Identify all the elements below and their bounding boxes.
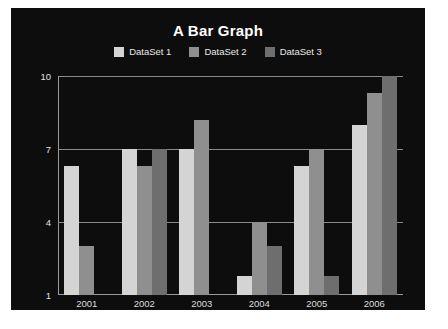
y-axis-tick-label: 4	[11, 217, 51, 228]
bar[interactable]	[64, 166, 79, 295]
x-axis-tick-label: 2002	[116, 298, 174, 309]
legend-entry[interactable]: DataSet 1	[114, 46, 171, 57]
x-axis-tick-label: 2005	[288, 298, 346, 309]
legend-label: DataSet 2	[204, 46, 246, 57]
bar[interactable]	[294, 166, 309, 295]
bar[interactable]	[324, 276, 339, 295]
bar[interactable]	[152, 149, 167, 295]
legend-swatch-icon	[265, 47, 275, 57]
plot-area: 14710200120022003200420052006	[58, 76, 403, 295]
bar[interactable]	[267, 246, 282, 295]
bar[interactable]	[237, 276, 252, 295]
bar[interactable]	[137, 166, 152, 295]
bar-group	[231, 76, 289, 295]
legend-swatch-icon	[189, 47, 199, 57]
screenshot-root: A Bar Graph DataSet 1DataSet 2DataSet 3 …	[0, 0, 448, 329]
chart-legend: DataSet 1DataSet 2DataSet 3	[11, 46, 425, 57]
bar-group	[116, 76, 174, 295]
bar-group	[288, 76, 346, 295]
bar[interactable]	[367, 93, 382, 295]
bar[interactable]	[194, 120, 209, 295]
x-axis-tick-label: 2006	[346, 298, 404, 309]
bar[interactable]	[352, 125, 367, 295]
bar-group	[173, 76, 231, 295]
bar[interactable]	[252, 222, 267, 295]
bar-group	[58, 76, 116, 295]
x-axis-tick-label: 2004	[231, 298, 289, 309]
bar[interactable]	[309, 149, 324, 295]
bar[interactable]	[122, 149, 137, 295]
y-axis-tick-label: 7	[11, 144, 51, 155]
bar[interactable]	[179, 149, 194, 295]
x-axis-tick-label: 2003	[173, 298, 231, 309]
legend-entry[interactable]: DataSet 2	[189, 46, 246, 57]
y-axis-tick-label: 1	[11, 290, 51, 301]
chart-panel: A Bar Graph DataSet 1DataSet 2DataSet 3 …	[11, 8, 425, 310]
chart-title: A Bar Graph	[11, 22, 425, 39]
legend-label: DataSet 1	[129, 46, 171, 57]
bar-group	[346, 76, 404, 295]
x-axis-tick-label: 2001	[58, 298, 116, 309]
legend-entry[interactable]: DataSet 3	[265, 46, 322, 57]
legend-label: DataSet 3	[280, 46, 322, 57]
legend-swatch-icon	[114, 47, 124, 57]
bar[interactable]	[382, 76, 397, 295]
bar[interactable]	[79, 246, 94, 295]
y-axis-tick-label: 10	[11, 71, 51, 82]
